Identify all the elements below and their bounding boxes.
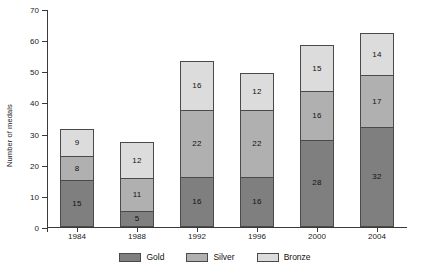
stacked-bar: 162216: [180, 61, 214, 227]
y-tick-mark: [42, 135, 47, 136]
legend-label-bronze: Bronze: [284, 252, 311, 262]
y-axis-line: [47, 10, 48, 228]
y-tick-label: 30: [30, 130, 39, 139]
bar-segment-silver: 22: [180, 110, 214, 179]
bar-segment-value: 5: [135, 215, 140, 223]
bar-segment-gold: 28: [300, 140, 334, 227]
bar-segment-gold: 5: [120, 211, 154, 227]
legend-item-silver: Silver: [186, 252, 234, 262]
bar-segment-value: 15: [72, 200, 81, 208]
x-axis-label: 1984: [52, 232, 102, 241]
bar-segment-bronze: 15: [300, 45, 334, 92]
bar-segment-gold: 32: [360, 127, 394, 227]
bar-segment-bronze: 12: [240, 73, 274, 110]
y-tick-mark: [42, 72, 47, 73]
bar-segment-value: 12: [252, 88, 261, 96]
y-tick-label: 10: [30, 192, 39, 201]
legend-swatch-bronze: [257, 253, 279, 262]
bar-segment-silver: 17: [360, 75, 394, 128]
legend-item-bronze: Bronze: [257, 252, 311, 262]
bar-segment-silver: 16: [300, 91, 334, 141]
y-tick-label: 60: [30, 37, 39, 46]
stacked-bar: 9815: [60, 129, 94, 227]
x-axis-label: 2000: [292, 232, 342, 241]
bar-segment-silver: 22: [240, 110, 274, 179]
y-tick-mark: [42, 103, 47, 104]
y-tick-mark: [42, 41, 47, 42]
y-tick-label: 70: [30, 6, 39, 15]
legend-label-gold: Gold: [146, 252, 164, 262]
legend-label-silver: Silver: [213, 252, 234, 262]
bar-segment-value: 16: [192, 82, 201, 90]
bar-segment-value: 22: [192, 140, 201, 148]
bar-segment-value: 32: [372, 173, 381, 181]
bar-segment-bronze: 9: [60, 129, 94, 157]
legend-swatch-silver: [186, 253, 208, 262]
bar-segment-bronze: 14: [360, 33, 394, 77]
plot-area: 010203040506070 981512115162216122216151…: [47, 10, 407, 228]
bar-segment-silver: 11: [120, 178, 154, 212]
y-tick-mark: [42, 197, 47, 198]
bar-segment-value: 11: [133, 191, 142, 199]
bar-segment-gold: 16: [180, 177, 214, 227]
x-axis-label: 2004: [352, 232, 402, 241]
y-tick-mark: [42, 166, 47, 167]
bar-segment-silver: 8: [60, 156, 94, 181]
legend-swatch-gold: [119, 253, 141, 262]
y-tick-label: 0: [35, 224, 39, 233]
x-tick-mark: [47, 228, 48, 232]
y-tick-mark: [42, 10, 47, 11]
bar-segment-value: 16: [252, 198, 261, 206]
stacked-bar: 12115: [120, 142, 154, 227]
x-axis-line: [47, 227, 407, 228]
bar-segment-bronze: 16: [180, 61, 214, 111]
x-axis-label: 1988: [112, 232, 162, 241]
legend-item-gold: Gold: [119, 252, 164, 262]
bar-segment-value: 28: [312, 179, 321, 187]
bar-segment-value: 15: [312, 65, 321, 73]
bar-segment-gold: 15: [60, 180, 94, 227]
chart-legend: Gold Silver Bronze: [0, 252, 430, 262]
x-axis-label: 1996: [232, 232, 282, 241]
y-tick-label: 50: [30, 68, 39, 77]
stacked-bar: 122216: [240, 73, 274, 227]
bar-segment-gold: 16: [240, 177, 274, 227]
x-axis-label: 1992: [172, 232, 222, 241]
bar-segment-value: 22: [252, 140, 261, 148]
bar-segment-value: 17: [372, 98, 381, 106]
bar-segment-bronze: 12: [120, 142, 154, 179]
y-axis-title: Number of medals: [2, 88, 16, 184]
y-tick-label: 20: [30, 161, 39, 170]
stacked-bar: 151628: [300, 45, 334, 227]
bar-segment-value: 8: [75, 165, 80, 173]
bar-segment-value: 9: [75, 139, 80, 147]
bar-segment-value: 12: [132, 157, 141, 165]
bar-segment-value: 16: [192, 198, 201, 206]
bar-segment-value: 16: [312, 112, 321, 120]
y-tick-label: 40: [30, 99, 39, 108]
medals-stacked-bar-chart: Number of medals 010203040506070 9815121…: [0, 0, 430, 274]
stacked-bar: 141732: [360, 33, 394, 227]
bar-segment-value: 14: [372, 51, 381, 59]
